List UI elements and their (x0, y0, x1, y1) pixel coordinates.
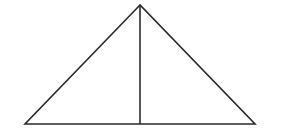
triangle-diagram (0, 0, 283, 134)
diagram-canvas (0, 0, 283, 134)
